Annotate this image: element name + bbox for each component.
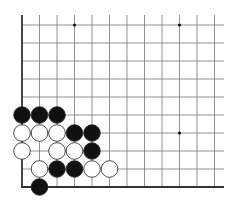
board-grid	[21, 15, 224, 188]
black-stone	[84, 125, 101, 142]
go-board	[0, 0, 239, 207]
white-stone	[14, 125, 31, 142]
white-stone	[31, 161, 48, 178]
star-point	[178, 23, 181, 26]
white-stone	[31, 125, 48, 142]
black-stone	[66, 161, 83, 178]
black-stone	[14, 107, 31, 124]
white-stone	[66, 143, 83, 160]
white-stone	[14, 143, 31, 160]
star-point	[73, 23, 76, 26]
black-stone	[49, 107, 66, 124]
black-stone	[66, 125, 83, 142]
black-stone	[31, 179, 48, 196]
black-stone	[49, 161, 66, 178]
star-point	[178, 131, 181, 134]
white-stone	[101, 161, 118, 178]
white-stone	[49, 125, 66, 142]
black-stone	[31, 107, 48, 124]
white-stone	[84, 161, 101, 178]
black-stone	[84, 143, 101, 160]
white-stone	[49, 143, 66, 160]
